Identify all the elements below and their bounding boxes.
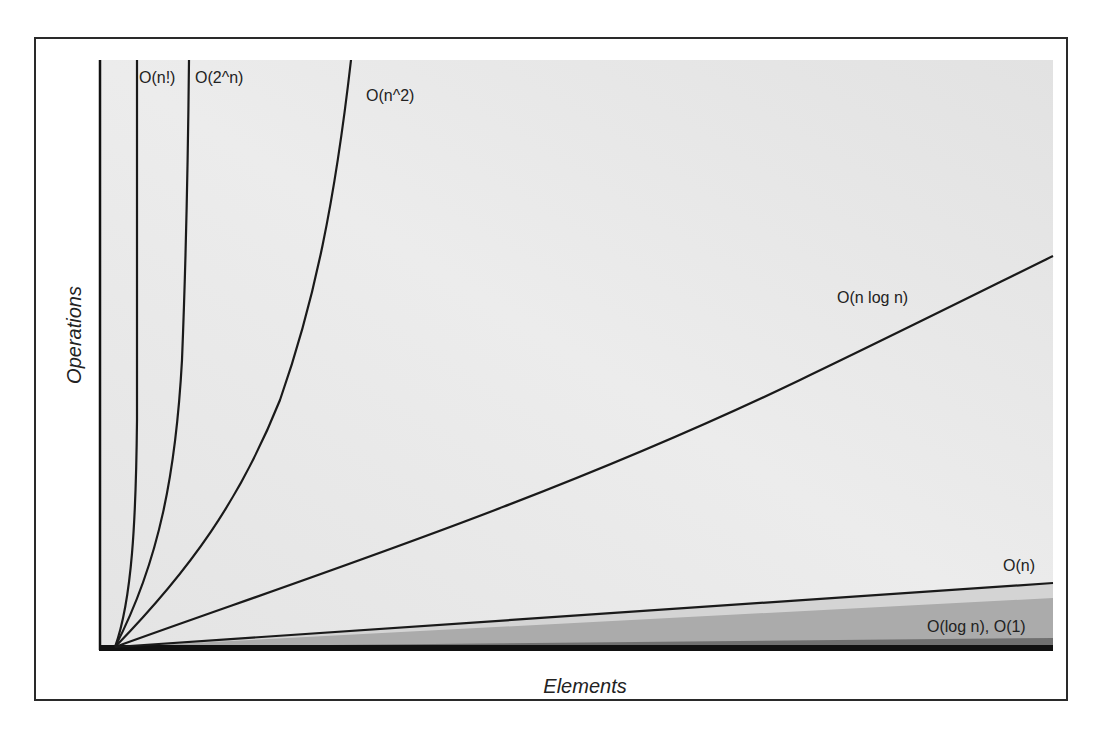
x-axis-label: Elements — [543, 675, 626, 698]
y-axis-label: Operations — [63, 286, 86, 384]
label-2-pow-n: O(2^n) — [195, 69, 243, 87]
label-log-const: O(log n), O(1) — [927, 618, 1026, 636]
x-axis-line — [99, 645, 1053, 651]
label-linear: O(n) — [1003, 557, 1035, 575]
label-n-factorial: O(n!) — [139, 69, 175, 87]
label-n-squared: O(n^2) — [366, 87, 414, 105]
label-n-log-n: O(n log n) — [837, 289, 908, 307]
plot-background — [99, 60, 1053, 650]
